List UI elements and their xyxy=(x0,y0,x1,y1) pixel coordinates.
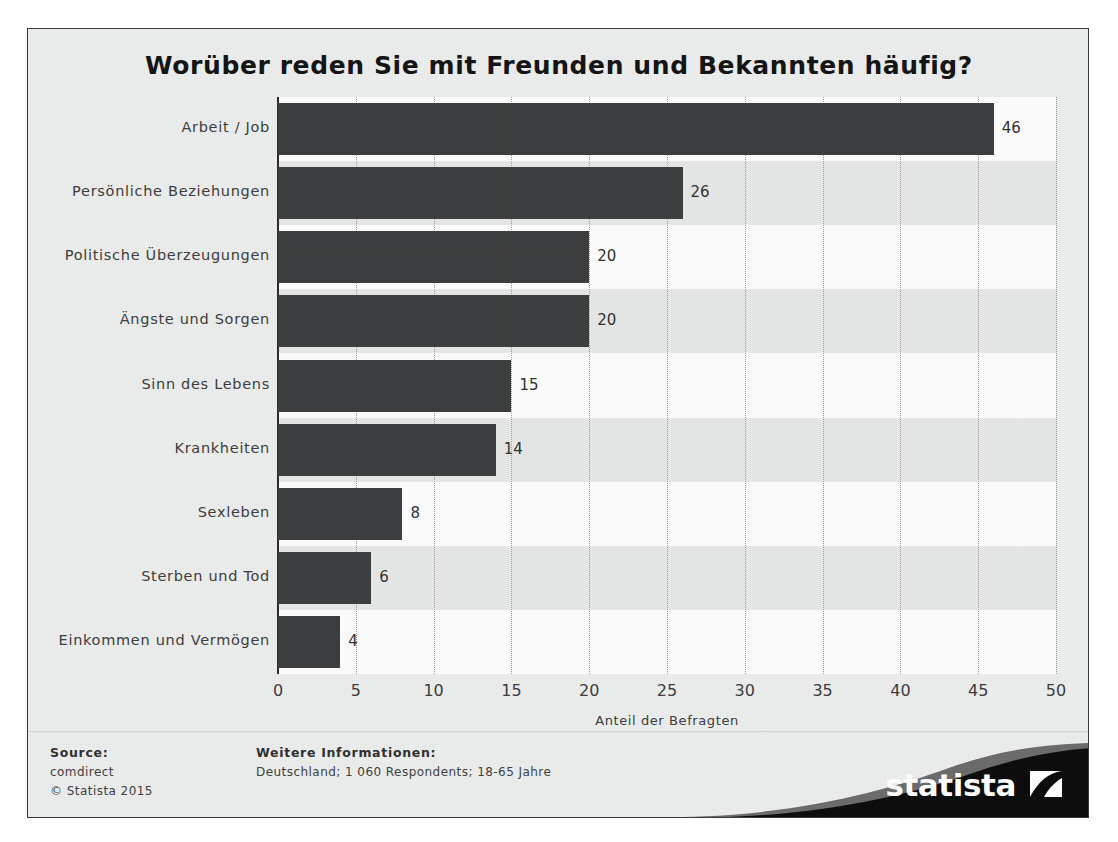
bar-value-label: 26 xyxy=(691,183,710,201)
x-tick-label: 30 xyxy=(735,681,755,700)
bar-value-label: 4 xyxy=(348,632,358,650)
bar-value-label: 14 xyxy=(504,440,523,458)
x-tick-label: 5 xyxy=(351,681,361,700)
category-label: Sexleben xyxy=(40,504,270,520)
info-heading: Weitere Informationen: xyxy=(256,745,551,760)
chart-footer: Source: comdirect © Statista 2015 Weiter… xyxy=(28,731,1089,817)
source-heading: Source: xyxy=(50,745,153,760)
category-label: Sterben und Tod xyxy=(40,568,270,584)
x-tick-label: 35 xyxy=(812,681,832,700)
source-block: Source: comdirect © Statista 2015 xyxy=(50,745,153,798)
bar-value-label: 20 xyxy=(597,311,616,329)
category-label: Politische Überzeugungen xyxy=(40,247,270,263)
further-information-block: Weitere Informationen: Deutschland; 1 06… xyxy=(256,745,551,779)
gridline-x-50 xyxy=(1056,97,1057,674)
x-tick-label: 50 xyxy=(1046,681,1066,700)
statista-logo-swoosh: statista xyxy=(670,743,1089,817)
screenshot-stage: Worüber reden Sie mit Freunden und Bekan… xyxy=(0,0,1118,842)
footer-divider xyxy=(28,731,1089,732)
bar xyxy=(278,103,994,155)
bar-value-label: 46 xyxy=(1002,119,1021,137)
category-label: Sinn des Lebens xyxy=(40,376,270,392)
bar-value-label: 15 xyxy=(519,376,538,394)
gridline-x-40 xyxy=(900,97,901,674)
bar xyxy=(278,231,589,283)
x-axis-tick-labels: 05101520253035404550 xyxy=(278,681,1056,707)
swoosh-shape xyxy=(670,743,1089,817)
x-tick-label: 45 xyxy=(968,681,988,700)
bar xyxy=(278,488,402,540)
bar xyxy=(278,167,683,219)
bar-value-label: 8 xyxy=(410,504,420,522)
x-axis-title: Anteil der Befragten xyxy=(278,713,1056,728)
category-label: Ängste und Sorgen xyxy=(40,311,270,327)
gridline-x-30 xyxy=(745,97,746,674)
copyright-text: © Statista 2015 xyxy=(50,784,153,798)
bar xyxy=(278,616,340,668)
statista-chart-card: Worüber reden Sie mit Freunden und Bekan… xyxy=(27,28,1089,818)
x-tick-label: 10 xyxy=(423,681,443,700)
bar-value-label: 6 xyxy=(379,568,389,586)
bar xyxy=(278,552,371,604)
source-name: comdirect xyxy=(50,765,153,779)
category-label: Persönliche Beziehungen xyxy=(40,183,270,199)
bar xyxy=(278,424,496,476)
gridline-x-35 xyxy=(823,97,824,674)
x-tick-label: 40 xyxy=(890,681,910,700)
statista-wordmark: statista xyxy=(885,767,1016,803)
bar xyxy=(278,295,589,347)
category-label: Arbeit / Job xyxy=(40,119,270,135)
x-tick-label: 0 xyxy=(273,681,283,700)
gridline-x-45 xyxy=(978,97,979,674)
info-line: Deutschland; 1 060 Respondents; 18-65 Ja… xyxy=(256,765,551,779)
x-tick-label: 25 xyxy=(657,681,677,700)
statista-logo-icon xyxy=(1028,769,1064,799)
plot-area: 462620201514864 xyxy=(278,97,1056,674)
category-label: Krankheiten xyxy=(40,440,270,456)
x-tick-label: 15 xyxy=(501,681,521,700)
bar xyxy=(278,360,511,412)
category-axis-labels: Arbeit / JobPersönliche BeziehungenPolit… xyxy=(38,97,270,674)
x-tick-label: 20 xyxy=(579,681,599,700)
chart-title: Worüber reden Sie mit Freunden und Bekan… xyxy=(28,51,1089,80)
bar-value-label: 20 xyxy=(597,247,616,265)
category-label: Einkommen und Vermögen xyxy=(40,632,270,648)
